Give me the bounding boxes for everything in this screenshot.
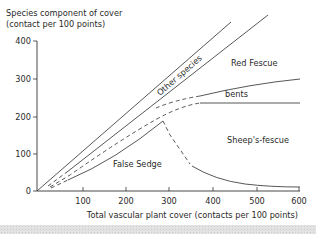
y-ticks: 400 300 200 100 0	[15, 36, 37, 196]
x-tick-label: 600	[291, 196, 307, 206]
x-ticks: 100 200 300 400 500 600	[75, 187, 307, 206]
chart-plot: 400 300 200 100 0 100 200 300 400 500 60…	[0, 0, 316, 234]
label-false-sedge: False Sedge	[113, 159, 162, 169]
x-axis-title: Total vascular plant cover (contacts per…	[86, 210, 298, 220]
x-tick-label: 200	[118, 196, 134, 206]
label-other-species: Other species	[155, 53, 204, 98]
label-bents: bents	[225, 89, 248, 99]
x-tick-label: 400	[205, 196, 221, 206]
footer-band	[0, 225, 316, 234]
x-tick-label: 500	[249, 196, 265, 206]
y-tick-label: 200	[15, 112, 31, 122]
x-tick-label: 300	[161, 196, 177, 206]
y-tick-label: 400	[15, 36, 31, 46]
x-tick-label: 100	[75, 196, 91, 206]
line-false-sedge-rise	[68, 121, 163, 180]
label-red-fescue: Red Fescue	[231, 58, 277, 68]
line-false-sedge-dashed-start	[51, 180, 68, 188]
y-tick-label: 0	[26, 186, 31, 196]
y-tick-label: 100	[15, 149, 31, 159]
line-sheeps-fescue-lower	[192, 166, 300, 187]
series-lines	[37, 15, 300, 191]
line-bents-lower-dashed	[50, 103, 200, 187]
label-sheeps-fescue: Sheep's-fescue	[227, 135, 289, 145]
line-false-sedge-fall-dashed	[163, 121, 190, 164]
y-tick-label: 300	[15, 74, 31, 84]
line-bents-upper	[200, 79, 300, 96]
